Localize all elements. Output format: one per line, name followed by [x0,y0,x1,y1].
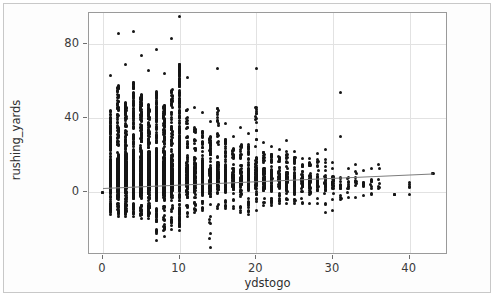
trend-line [103,174,433,189]
data-point [316,173,319,176]
x-tick-mark-40 [409,255,410,259]
data-point [117,106,120,109]
data-point [224,169,227,172]
data-point [324,165,327,168]
data-point [117,210,120,213]
data-point [147,196,150,199]
data-point [362,169,365,172]
data-point [178,157,181,160]
y-tick-mark-40 [83,117,87,118]
data-point [240,193,243,196]
data-point [171,97,174,100]
data-point [170,224,173,227]
data-point [378,167,381,170]
data-point [293,202,296,205]
data-point [254,168,257,171]
data-point [140,140,143,143]
data-point [263,186,266,189]
data-point [232,163,235,166]
x-tick-mark-20 [255,255,256,259]
data-point [163,190,166,193]
data-point [116,90,119,93]
x-tick-label-40: 40 [401,261,416,275]
data-point [216,132,219,135]
data-point [124,63,127,66]
data-point [270,145,273,148]
data-point [209,189,212,192]
data-point [255,175,258,178]
gridline-x-30 [333,13,334,253]
data-point [316,165,319,168]
data-point [232,169,235,172]
data-point [232,175,235,178]
data-point [170,228,173,231]
data-point [132,151,135,154]
data-point [362,183,365,186]
data-point [247,176,250,179]
data-point [117,215,120,218]
data-point [186,173,189,176]
data-point [117,94,120,97]
data-point [155,195,158,198]
x-tick-label-0: 0 [98,261,105,275]
data-point [208,218,211,221]
data-point [331,161,334,164]
data-point [163,218,166,221]
data-point [331,209,334,212]
data-point [278,192,281,195]
data-point [262,204,265,207]
data-point [208,237,211,240]
data-point [109,213,112,216]
data-point [216,67,219,70]
data-point [278,169,281,172]
data-point [193,211,196,214]
y-tick-mark-0 [83,191,87,192]
data-point [171,196,174,199]
data-point [239,126,242,129]
data-point [224,139,227,142]
data-point [278,202,281,205]
data-point [194,139,197,142]
data-point [163,152,166,155]
data-point [124,215,127,218]
data-point [293,162,296,165]
data-point [140,54,143,57]
data-point [186,204,189,207]
data-point [339,135,342,138]
y-tick-mark-80 [83,43,87,44]
data-point [147,146,150,149]
data-point [201,140,204,143]
data-point [132,160,135,163]
data-point [170,116,173,119]
data-point [216,119,219,122]
data-point [354,196,357,199]
y-tick-label-0: 0 [72,184,79,198]
data-point [186,180,189,183]
data-point [140,194,143,197]
data-point [224,122,227,125]
data-point [148,191,151,194]
data-point [124,106,127,109]
data-point [209,157,212,160]
data-point [185,109,188,112]
data-point [124,204,127,207]
data-point [247,189,250,192]
data-point [170,144,173,147]
data-point [247,132,250,135]
data-point [163,169,166,172]
data-point [186,168,189,171]
data-point [178,74,181,77]
data-point [109,172,112,175]
data-point [124,113,127,116]
data-point [132,126,135,129]
data-point [308,164,311,167]
data-point [347,181,350,184]
data-point [255,209,258,212]
data-point [316,202,319,205]
data-point [140,217,143,220]
data-point [155,116,158,119]
data-point [209,246,212,249]
data-point [109,74,112,77]
data-point [247,213,250,216]
data-point [232,207,235,210]
